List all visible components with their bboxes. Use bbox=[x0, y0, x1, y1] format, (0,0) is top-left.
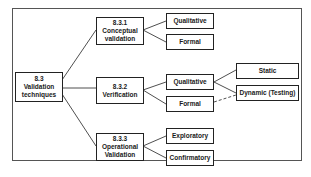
node-label: Qualitative bbox=[173, 78, 206, 86]
node-formal-conceptual: Formal bbox=[166, 34, 214, 50]
node-label: Verification bbox=[102, 91, 137, 99]
node-label: Operational bbox=[102, 143, 138, 151]
node-label: validation bbox=[105, 35, 135, 43]
node-label: 8.3.1 bbox=[113, 19, 127, 27]
node-label: Validation bbox=[105, 151, 136, 159]
node-formal-verification: Formal bbox=[166, 96, 214, 112]
node-label: Conceptual bbox=[102, 27, 137, 35]
node-dynamic-testing: Dynamic (Testing) bbox=[236, 85, 299, 101]
node-qualitative-verification: Qualitative bbox=[166, 74, 214, 90]
node-label: 8.3.2 bbox=[113, 83, 127, 91]
node-label: Static bbox=[259, 67, 277, 75]
node-label: techniques bbox=[22, 91, 56, 99]
node-label: Validation bbox=[24, 83, 55, 91]
node-label: 8.3 bbox=[34, 75, 43, 83]
node-label: Formal bbox=[179, 38, 201, 46]
node-operational-validation: 8.3.3 Operational Validation bbox=[96, 133, 144, 161]
node-label: Dynamic (Testing) bbox=[240, 89, 296, 97]
node-static: Static bbox=[236, 63, 299, 79]
node-label: Qualitative bbox=[173, 17, 206, 25]
node-label: Confirmatory bbox=[170, 154, 211, 162]
node-label: 8.3.3 bbox=[113, 135, 127, 143]
node-qualitative-conceptual: Qualitative bbox=[166, 13, 214, 29]
node-label: Exploratory bbox=[172, 132, 208, 140]
node-exploratory: Exploratory bbox=[166, 128, 214, 144]
node-conceptual-validation: 8.3.1 Conceptual validation bbox=[96, 17, 144, 45]
node-confirmatory: Confirmatory bbox=[166, 150, 214, 166]
node-verification: 8.3.2 Verification bbox=[96, 77, 144, 104]
root-node-validation-techniques: 8.3 Validation techniques bbox=[15, 72, 63, 102]
node-label: Formal bbox=[179, 100, 201, 108]
